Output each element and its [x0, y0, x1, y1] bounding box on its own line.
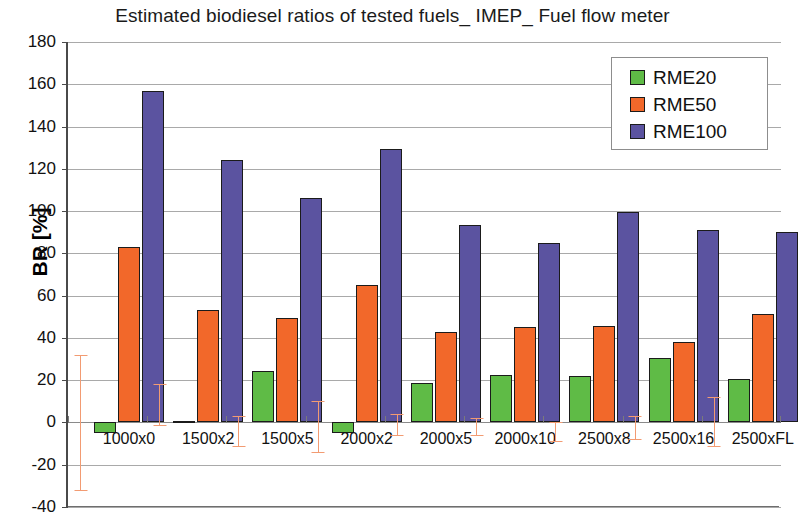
bar-rme20	[649, 358, 671, 422]
x-tick-mark	[702, 416, 703, 423]
error-bar-cap-lower	[470, 435, 483, 436]
error-bar-cap-lower	[708, 446, 721, 447]
legend-swatch-icon	[630, 70, 645, 85]
bar-rme20	[411, 383, 433, 422]
x-tick-mark	[68, 416, 69, 423]
error-bar-line	[714, 397, 715, 446]
y-tick-label: 120	[0, 159, 56, 179]
y-tick-label: 100	[0, 201, 56, 221]
error-bar-cap-upper	[153, 384, 166, 385]
x-tick-mark	[623, 416, 624, 423]
bar-rme50	[356, 285, 378, 422]
bar-rme50	[197, 310, 219, 422]
error-bar-cap-upper	[74, 355, 87, 356]
error-bar-cap-upper	[232, 416, 245, 417]
error-bar-line	[635, 416, 636, 439]
category-group: 1500x2	[147, 42, 226, 507]
y-tick-label: 180	[0, 32, 56, 52]
y-tick-label: 60	[0, 286, 56, 306]
error-bar-cap-lower	[391, 435, 404, 436]
bar-rme20	[173, 421, 195, 423]
bar-rme50	[435, 332, 457, 423]
error-bar-line	[476, 418, 477, 435]
error-bar-line	[555, 422, 556, 441]
category-group: 1500x5	[226, 42, 305, 507]
legend-item-rme20: RME20	[630, 64, 767, 91]
bar-rme20	[728, 379, 750, 422]
error-bar-cap-lower	[629, 439, 642, 440]
error-bar-cap-lower	[549, 441, 562, 442]
y-tick-label: -40	[0, 497, 56, 513]
legend-swatch-icon	[630, 97, 645, 112]
x-tick-mark	[147, 416, 148, 423]
y-tick-label: 80	[0, 243, 56, 263]
x-tick-mark	[780, 416, 781, 423]
y-tick-mark	[62, 507, 68, 508]
error-bar-cap-upper	[549, 422, 562, 423]
y-tick-label: 20	[0, 370, 56, 390]
y-tick-label: 40	[0, 328, 56, 348]
error-bar-line	[80, 355, 81, 490]
legend-label: RME100	[653, 122, 727, 141]
chart-title: Estimated biodiesel ratios of tested fue…	[0, 5, 785, 27]
legend-swatch-icon	[630, 124, 645, 139]
error-bar-cap-lower	[153, 425, 166, 426]
x-tick-mark	[385, 416, 386, 423]
error-bar-cap-upper	[312, 401, 325, 402]
x-tick-mark	[543, 416, 544, 423]
bar-rme50	[673, 342, 695, 422]
legend-label: RME50	[653, 95, 716, 114]
y-tick-label: 140	[0, 117, 56, 137]
bar-rme50	[752, 314, 774, 423]
bar-rme20	[490, 375, 512, 423]
y-gridline	[68, 507, 781, 508]
category-group: 1000x0	[68, 42, 147, 507]
error-bar-cap-lower	[232, 446, 245, 447]
x-tick-label: 2500xFL	[732, 430, 794, 448]
x-tick-mark	[464, 416, 465, 423]
legend-item-rme50: RME50	[630, 91, 767, 118]
bar-rme50	[118, 247, 140, 422]
legend-label: RME20	[653, 68, 716, 87]
error-bar-line	[397, 414, 398, 435]
x-tick-mark	[306, 416, 307, 423]
y-axis-title: BR [%]	[28, 182, 52, 302]
error-bar-line	[318, 401, 319, 452]
error-bar-cap-upper	[708, 397, 721, 398]
bar-rme20	[569, 376, 591, 423]
bar-rme50	[514, 327, 536, 422]
error-bar-cap-lower	[312, 452, 325, 453]
error-bar-line	[159, 384, 160, 424]
y-tick-label: -20	[0, 455, 56, 475]
bar-rme20	[252, 371, 274, 423]
error-bar-line	[238, 416, 239, 446]
category-group: 2000x10	[464, 42, 543, 507]
legend-item-rme100: RME100	[630, 118, 767, 145]
error-bar-cap-upper	[391, 414, 404, 415]
x-tick-mark	[226, 416, 227, 423]
y-tick-label: 160	[0, 74, 56, 94]
category-group: 2000x5	[385, 42, 464, 507]
error-bar-cap-upper	[470, 418, 483, 419]
bar-rme50	[276, 318, 298, 423]
error-bar-cap-upper	[629, 416, 642, 417]
bar-rme100	[776, 232, 798, 422]
y-tick-label: 0	[0, 412, 56, 432]
error-bar-cap-lower	[74, 490, 87, 491]
category-group: 2000x2	[306, 42, 385, 507]
bar-rme50	[593, 326, 615, 422]
chart-legend: RME20RME50RME100	[611, 57, 768, 150]
